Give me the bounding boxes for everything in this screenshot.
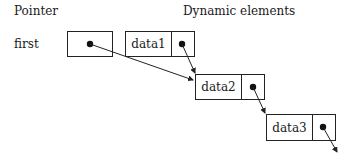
node-2-next-arrow	[250, 84, 265, 113]
first-pointer-arrow	[87, 41, 193, 80]
node-3-next-arrow	[320, 124, 337, 152]
pointer-arrows	[0, 0, 351, 158]
node-1-next-arrow	[179, 41, 195, 73]
